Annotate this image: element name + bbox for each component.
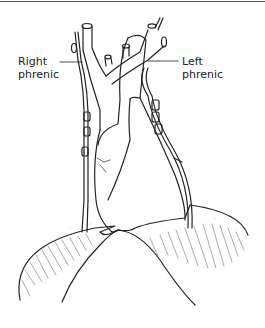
- label-left-phrenic: Left phrenic: [182, 55, 223, 81]
- label-right-line2: phrenic: [18, 68, 59, 81]
- label-right-phrenic: Right phrenic: [18, 55, 59, 81]
- label-right-line1: Right: [18, 55, 59, 68]
- left-phrenic-nerve: [142, 68, 192, 228]
- label-left-line1: Left: [182, 55, 223, 68]
- label-left-line2: phrenic: [182, 68, 223, 81]
- phrenic-nerve-illustration: [0, 0, 265, 328]
- diaphragm: [19, 205, 248, 305]
